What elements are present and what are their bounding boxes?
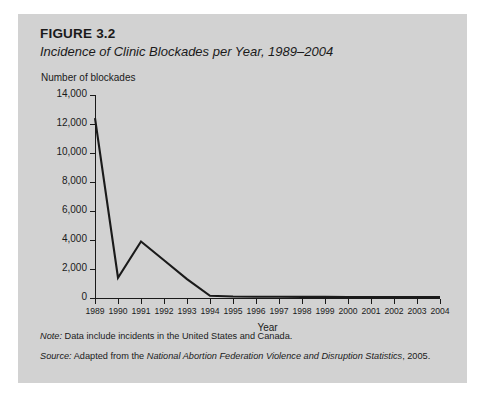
data-line-series (95, 95, 440, 298)
x-tick-mark-2003 (417, 299, 418, 304)
x-tick-mark-2004 (440, 299, 441, 304)
y-tick-label: 14,000 (56, 88, 87, 99)
y-tick-label: 0 (81, 291, 87, 302)
x-tick-label-1989: 1989 (85, 306, 104, 316)
y-tick-label: 4,000 (62, 233, 87, 244)
figure-header: FIGURE 3.2 Incidence of Clinic Blockades… (40, 26, 450, 60)
y-tick-label: 10,000 (56, 146, 87, 157)
x-tick-label-1992: 1992 (154, 306, 173, 316)
x-tick-mark-1994 (210, 299, 211, 304)
y-tick-label: 2,000 (62, 262, 87, 273)
x-tick-label-1995: 1995 (223, 306, 242, 316)
x-tick-label-2001: 2001 (361, 306, 380, 316)
x-tick-mark-2002 (394, 299, 395, 304)
x-tick-mark-1989 (95, 299, 96, 304)
y-tick-label: 6,000 (62, 204, 87, 215)
x-tick-label-2000: 2000 (338, 306, 357, 316)
y-tick-label: 8,000 (62, 175, 87, 186)
x-tick-label-1996: 1996 (246, 306, 265, 316)
x-tick-mark-1996 (256, 299, 257, 304)
x-tick-label-1991: 1991 (131, 306, 150, 316)
x-tick-label-2004: 2004 (430, 306, 449, 316)
x-tick-mark-1997 (279, 299, 280, 304)
x-tick-label-1998: 1998 (292, 306, 311, 316)
source-label: Source: (40, 351, 72, 361)
x-tick-mark-1991 (141, 299, 142, 304)
x-tick-mark-2001 (371, 299, 372, 304)
x-tick-mark-1990 (118, 299, 119, 304)
x-tick-mark-1992 (164, 299, 165, 304)
x-tick-label-1999: 1999 (315, 306, 334, 316)
x-tick-label-1990: 1990 (108, 306, 127, 316)
x-tick-label-2003: 2003 (407, 306, 426, 316)
source-text-before: Adapted from the (72, 351, 147, 361)
x-tick-mark-1995 (233, 299, 234, 304)
plot-area: 02,0004,0006,0008,00010,00012,00014,000 … (95, 95, 440, 298)
x-tick-mark-1993 (187, 299, 188, 304)
source-line: Source: Adapted from the National Aborti… (40, 350, 452, 363)
x-tick-mark-2000 (348, 299, 349, 304)
footnotes: Note: Data include incidents in the Unit… (40, 330, 452, 370)
note-label: Note: (40, 331, 62, 341)
source-publication-title: National Abortion Federation Violence an… (147, 351, 402, 361)
note-line: Note: Data include incidents in the Unit… (40, 330, 452, 343)
x-tick-label-1997: 1997 (269, 306, 288, 316)
figure-number: FIGURE 3.2 (40, 26, 450, 42)
source-text-after: , 2005. (402, 351, 430, 361)
x-tick-label-1994: 1994 (200, 306, 219, 316)
y-tick-label: 12,000 (56, 117, 87, 128)
x-tick-mark-1998 (302, 299, 303, 304)
x-tick-label-1993: 1993 (177, 306, 196, 316)
x-tick-mark-1999 (325, 299, 326, 304)
chart-area: Number of blockades 02,0004,0006,0008,00… (40, 72, 452, 322)
figure-title: Incidence of Clinic Blockades per Year, … (40, 43, 450, 60)
figure-box: FIGURE 3.2 Incidence of Clinic Blockades… (18, 14, 467, 383)
y-axis-title: Number of blockades (41, 72, 136, 83)
x-axis-line (95, 298, 440, 299)
note-text: Data include incidents in the United Sta… (62, 331, 292, 341)
x-tick-label-2002: 2002 (384, 306, 403, 316)
